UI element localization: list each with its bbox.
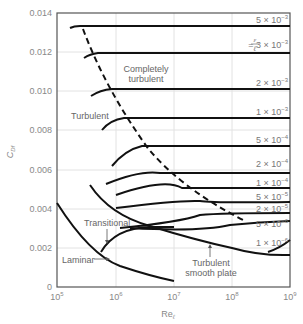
y-tick: 0.008 <box>29 125 52 135</box>
x-tick: 106 <box>109 291 123 302</box>
annotation-laminar: Laminar <box>62 255 95 265</box>
annotation-turbulent: Turbulent <box>71 111 109 121</box>
label-1e-3: 1 × 10−3 <box>256 106 289 117</box>
ell-symbol: ℓ <box>253 45 257 53</box>
x-tick: 107 <box>167 291 181 302</box>
x-axis-title: Reℓ <box>161 309 176 320</box>
y-axis-ticks: 0 0.002 0.004 0.006 0.008 0.010 0.012 0.… <box>29 8 52 292</box>
label-2e-4: 2 × 10−4 <box>256 158 289 169</box>
friction-drag-chart: 0 0.002 0.004 0.006 0.008 0.010 0.012 0.… <box>0 0 303 324</box>
annotation-completely: Completely <box>123 64 169 74</box>
label-1e-6: 1 × 10−6 <box>256 237 289 248</box>
curve-3e-3 <box>84 53 290 58</box>
label-5e-4: 5 × 10−4 <box>256 134 289 145</box>
y-tick: 0.006 <box>29 165 52 175</box>
annotation-transitional: Transitional <box>84 218 130 228</box>
y-tick: 0 <box>47 282 52 292</box>
x-tick: 108 <box>225 291 239 302</box>
y-tick: 0.014 <box>29 8 52 18</box>
x-tick: 105 <box>50 291 64 302</box>
y-tick: 0.004 <box>29 204 52 214</box>
label-2e-3: 2 × 10−3 <box>256 77 289 88</box>
y-tick: 0.012 <box>29 47 52 57</box>
epsilon-symbol: ε <box>254 36 257 44</box>
annotation-turbulent-line2: turbulent <box>128 74 164 84</box>
annotations: Completely turbulent Turbulent Transitio… <box>62 64 237 278</box>
x-axis-ticks: 105 106 107 108 109 <box>50 291 297 302</box>
y-tick: 0.010 <box>29 86 52 96</box>
curve-2e-3 <box>91 89 290 96</box>
curve-1e-3 <box>102 118 290 130</box>
label-5e-3: 5 × 10−3 <box>256 14 289 25</box>
label-5e-6: 5 × 10−6 <box>256 218 289 229</box>
y-tick: 0.002 <box>29 243 52 253</box>
y-axis-title: CDf <box>5 144 16 158</box>
curve-5e-3 <box>70 26 290 28</box>
x-tick: 109 <box>283 291 297 302</box>
annotation-smooth-plate-2: smooth plate <box>185 268 237 278</box>
svg-text:CDf: CDf <box>5 144 16 158</box>
label-1e-4: 1 × 10−4 <box>256 177 289 188</box>
annotation-smooth-plate-1: Turbulent <box>192 258 230 268</box>
label-5e-5: 5 × 10−5 <box>256 191 289 202</box>
